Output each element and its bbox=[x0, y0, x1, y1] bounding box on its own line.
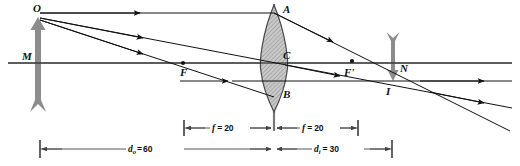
focal-point-F-dot bbox=[181, 61, 185, 65]
dim-f-left-equals: = bbox=[217, 123, 222, 133]
dim-f-right-value: 20 bbox=[314, 123, 324, 133]
label-F: F bbox=[179, 66, 188, 78]
ray-through-center-arrow-far bbox=[430, 92, 484, 103]
dim-f-right-equals: = bbox=[307, 123, 312, 133]
label-Fprime: F' bbox=[343, 66, 354, 78]
dimension-object-distance: do=60 bbox=[40, 140, 271, 158]
ray-through-focus-arrow bbox=[40, 20, 143, 54]
dimension-focal-right: f=20 bbox=[277, 120, 358, 136]
ray-through-center-arrow-out bbox=[285, 65, 340, 76]
label-A: A bbox=[282, 3, 290, 15]
label-C: C bbox=[283, 49, 291, 61]
dimension-image-distance: di=30 bbox=[277, 140, 392, 158]
focal-point-Fprime-dot bbox=[350, 59, 354, 63]
dimension-object-distance-label: do=60 bbox=[128, 144, 153, 155]
diagram-canvas: O M F A C B F' N I f=20 f=20 bbox=[0, 0, 520, 166]
dimension-image-distance-label: di=30 bbox=[314, 144, 339, 155]
object-arrow bbox=[30, 17, 46, 112]
label-I: I bbox=[385, 85, 391, 97]
label-N: N bbox=[399, 62, 409, 74]
image-arrow bbox=[387, 32, 400, 81]
dim-do-value: 60 bbox=[143, 144, 153, 154]
lens-ray-diagram: O M F A C B F' N I f=20 f=20 bbox=[0, 0, 520, 166]
label-B: B bbox=[282, 88, 290, 100]
dim-do-equals: = bbox=[137, 144, 142, 154]
ray-through-center-arrow-in bbox=[40, 18, 143, 38]
dim-di-equals: = bbox=[323, 144, 328, 154]
dim-di-subscript: i bbox=[319, 148, 321, 155]
dim-f-left-value: 20 bbox=[224, 123, 234, 133]
dimension-focal-left: f=20 bbox=[184, 120, 271, 136]
dim-di-value: 30 bbox=[330, 144, 340, 154]
label-M: M bbox=[21, 50, 33, 62]
label-O: O bbox=[33, 2, 41, 14]
